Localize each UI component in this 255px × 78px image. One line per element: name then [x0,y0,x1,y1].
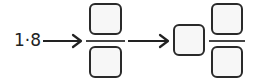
numerator-input-box[interactable] [211,3,243,35]
decimal-value: 1·8 [14,30,41,50]
denominator-input-box[interactable] [89,46,122,78]
arrow-right-icon [127,33,171,49]
numerator-input-box[interactable] [89,3,122,35]
arrow-right-icon [42,33,84,49]
whole-number-input-box[interactable] [173,24,205,56]
fraction-bar [209,40,245,42]
denominator-input-box[interactable] [211,46,243,78]
fraction-bar [86,40,125,42]
